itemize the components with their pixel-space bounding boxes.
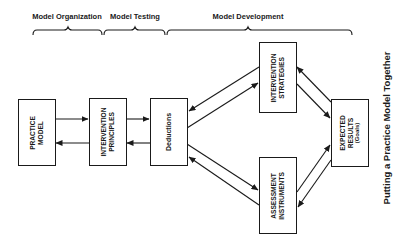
node-assessment-instruments: ASSESSMENT INSTRUMENTS xyxy=(259,157,297,234)
phase-label-model-testing: Model Testing xyxy=(110,12,160,21)
node-deductions: Deductions xyxy=(150,98,188,166)
phase-label-model-organization: Model Organization xyxy=(32,12,102,21)
arrow-strategies-to-results xyxy=(297,84,330,118)
phase-label-model-development: Model Development xyxy=(213,12,284,21)
diagram-title: Putting a Practice Model Together xyxy=(381,52,392,205)
brace-model-organization xyxy=(33,27,102,35)
node-expected-results-label: EXPECTED RESULTS (Goals) xyxy=(339,115,362,151)
node-deductions-label: Deductions xyxy=(165,113,173,151)
arrow-deductions-to-assessment xyxy=(187,144,258,190)
node-practice-model: PRACTICE MODEL xyxy=(18,99,56,166)
node-intervention-principles-label: INTERVENTION PRINCIPLES xyxy=(100,108,116,157)
brace-model-development xyxy=(167,27,352,35)
arrow-results-to-strategies xyxy=(297,67,331,102)
diagram-canvas: Model Organization Model Testing Model D… xyxy=(0,0,406,250)
node-intervention-principles: INTERVENTION PRINCIPLES xyxy=(89,98,127,166)
brace-model-testing xyxy=(104,27,165,35)
node-intervention-strategies-label: INTERVENTION STRATEGIES xyxy=(270,53,286,102)
arrow-assessment-to-deductions xyxy=(189,157,259,205)
node-practice-model-label: PRACTICE MODEL xyxy=(29,116,45,150)
node-intervention-strategies: INTERVENTION STRATEGIES xyxy=(259,42,297,113)
node-expected-results: EXPECTED RESULTS (Goals) xyxy=(331,99,369,167)
node-assessment-instruments-label: ASSESSMENT INSTRUMENTS xyxy=(270,172,286,220)
phase-braces xyxy=(33,27,352,35)
